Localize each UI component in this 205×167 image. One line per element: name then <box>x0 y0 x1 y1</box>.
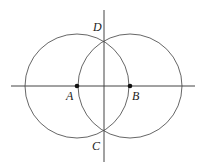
point-a <box>75 84 80 89</box>
geometry-diagram: D A B C <box>0 0 205 167</box>
label-b: B <box>132 89 140 103</box>
label-c: C <box>92 139 101 153</box>
point-b <box>128 84 133 89</box>
label-a: A <box>65 89 74 103</box>
label-d: D <box>92 20 102 34</box>
